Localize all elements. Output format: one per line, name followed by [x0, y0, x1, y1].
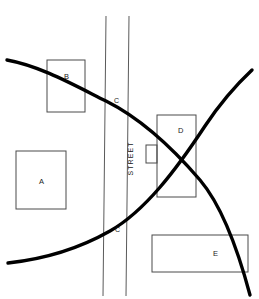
contour-label-c-lower: C	[115, 226, 120, 233]
street-lines	[103, 16, 129, 296]
site-plan-map: A B D E C C STREET	[0, 0, 259, 299]
street-left-edge-line	[103, 16, 106, 296]
building-d-annex-outline	[146, 145, 157, 163]
contour-label-c-upper: C	[114, 97, 119, 104]
building-b-label: B	[64, 73, 69, 81]
building-a-label: A	[39, 178, 44, 186]
building-e-label: E	[213, 250, 218, 258]
street-label: STREET	[127, 141, 134, 175]
building-d-label: D	[178, 127, 184, 135]
